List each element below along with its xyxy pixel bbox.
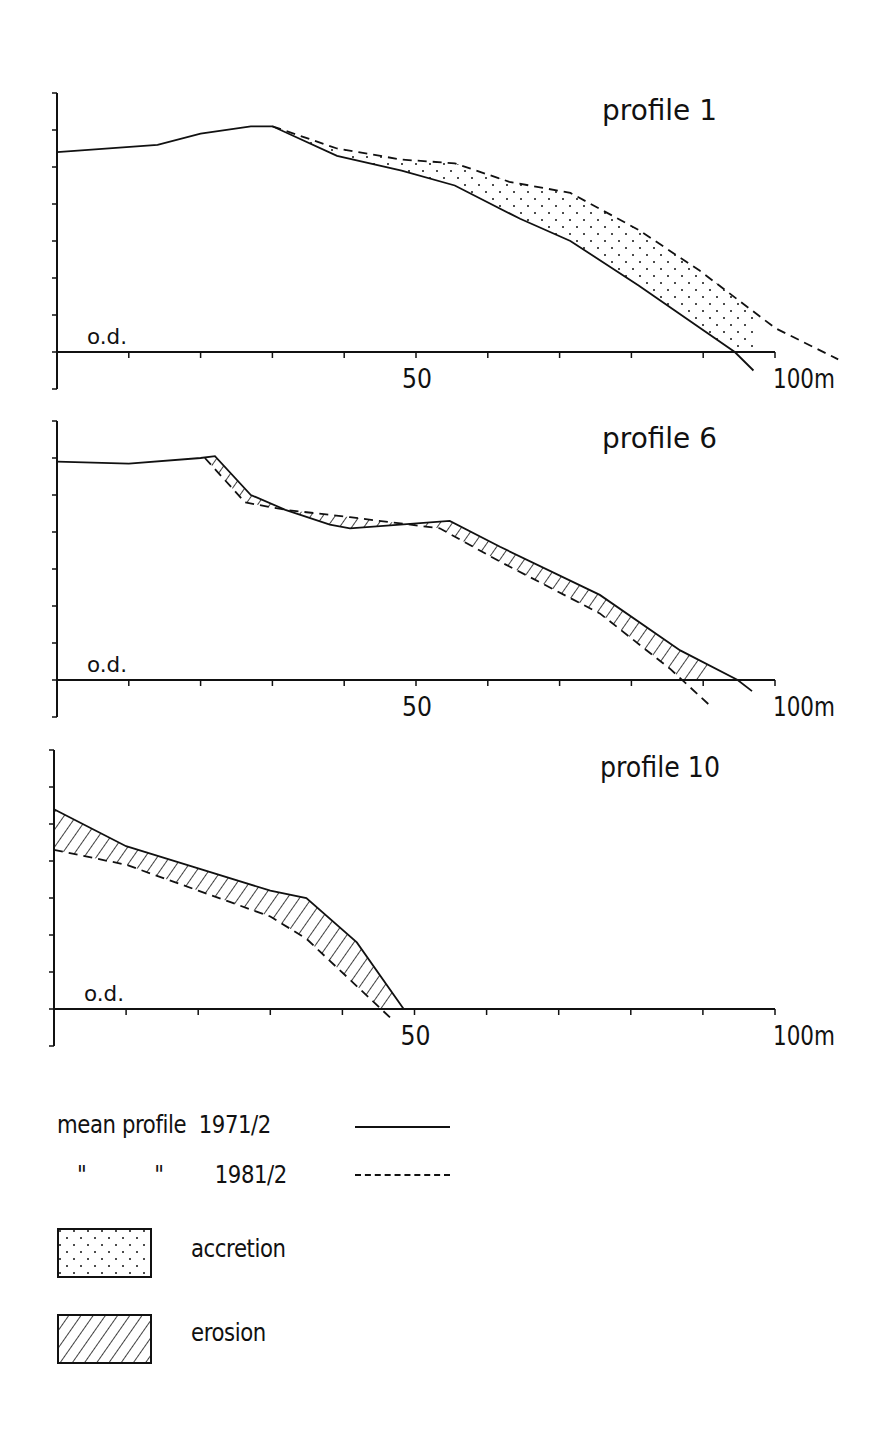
erosion-label: erosion <box>191 1318 266 1347</box>
panel-title: profile 1 <box>602 94 717 127</box>
profiles-chart: 50100mo.d.profile 150100mo.d.profile 650… <box>0 0 884 1100</box>
accretion-swatch <box>57 1228 153 1280</box>
x-tick-label: 50 <box>401 1021 431 1051</box>
legend-1981-label: ""1981/2 <box>77 1160 287 1189</box>
series-1981-line <box>205 458 710 706</box>
panel-2: 50100mo.d.profile 6 <box>52 421 835 722</box>
x-tick-label: 100m <box>773 692 835 722</box>
panel-title: profile 6 <box>602 422 717 455</box>
panel-3: 50100mo.d.profile 10 <box>49 750 835 1051</box>
panel-title: profile 10 <box>600 751 720 784</box>
accretion-area <box>272 126 753 352</box>
accretion-label: accretion <box>191 1234 286 1263</box>
x-tick-label: 100m <box>773 364 835 394</box>
datum-label: o.d. <box>87 652 127 677</box>
erosion-area <box>54 809 393 1009</box>
legend-solid-line <box>355 1126 450 1128</box>
x-tick-label: 50 <box>402 692 432 722</box>
series-1971-line <box>57 456 752 691</box>
datum-label: o.d. <box>87 324 127 349</box>
legend-dashed-line <box>355 1174 450 1176</box>
legend-1971-label: mean profile 1971/2 <box>57 1110 271 1139</box>
x-tick-label: 100m <box>773 1021 835 1051</box>
erosion-area <box>205 457 708 680</box>
panel-1: 50100mo.d.profile 1 <box>52 93 838 394</box>
datum-label: o.d. <box>84 981 124 1006</box>
erosion-swatch <box>57 1314 153 1366</box>
x-tick-label: 50 <box>402 364 432 394</box>
